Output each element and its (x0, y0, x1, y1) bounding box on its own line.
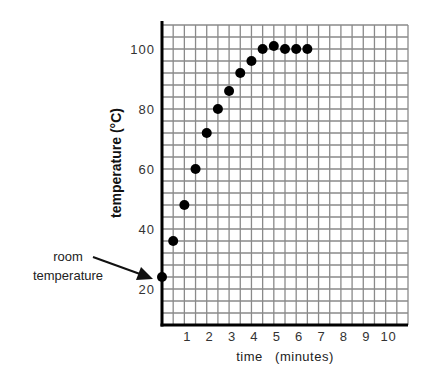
x-tick-label: 4 (250, 329, 258, 344)
x-tick-label: 2 (206, 329, 214, 344)
data-point (213, 104, 223, 114)
data-point (258, 44, 268, 54)
data-point (291, 44, 301, 54)
chart: 12345678910 20406080100 time (minutes) t… (0, 0, 430, 382)
data-point (224, 86, 234, 96)
data-point (179, 200, 189, 210)
x-tick-label: 5 (273, 329, 281, 344)
data-point (235, 68, 245, 78)
grid (162, 25, 408, 325)
data-point (191, 164, 201, 174)
data-point (157, 272, 167, 282)
data-point (246, 56, 256, 66)
data-point (302, 44, 312, 54)
x-tick-label: 6 (295, 329, 303, 344)
x-tick-label: 9 (362, 329, 370, 344)
y-tick-labels: 20406080100 (130, 42, 155, 297)
y-tick-label: 20 (139, 282, 155, 297)
data-point (280, 44, 290, 54)
x-tick-labels: 12345678910 (183, 329, 397, 344)
x-tick-label: 1 (183, 329, 191, 344)
y-tick-label: 100 (130, 42, 155, 57)
data-point (269, 41, 279, 51)
data-point (202, 128, 212, 138)
arrow-head-icon (136, 267, 153, 280)
axes (161, 21, 409, 327)
annotation-line-1: room (53, 249, 83, 264)
annotation-line-2: temperature (33, 268, 103, 283)
x-tick-label: 3 (228, 329, 236, 344)
y-axis-title: temperature (°C) (108, 108, 124, 218)
y-tick-label: 60 (139, 162, 155, 177)
room-temperature-annotation: room temperature (33, 249, 153, 283)
y-tick-label: 40 (139, 222, 155, 237)
x-tick-label: 7 (317, 329, 325, 344)
x-tick-label: 8 (340, 329, 348, 344)
data-points (157, 41, 312, 282)
x-axis-title: time (minutes) (236, 349, 334, 364)
y-tick-label: 80 (139, 102, 155, 117)
data-point (168, 236, 178, 246)
x-tick-label: 10 (380, 329, 396, 344)
